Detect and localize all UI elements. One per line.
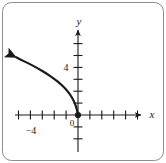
origin-point-marker xyxy=(75,112,81,118)
x-axis-label: x xyxy=(149,108,155,120)
coordinate-plane: x y 0 −4 4 xyxy=(0,0,166,163)
graph-figure: x y 0 −4 4 xyxy=(0,0,166,163)
x-tick-label-minus-4: −4 xyxy=(26,125,37,136)
origin-label: 0 xyxy=(70,118,75,128)
figure-border xyxy=(3,3,164,161)
y-axis-label: y xyxy=(76,15,82,27)
y-tick-label-4: 4 xyxy=(64,62,69,73)
